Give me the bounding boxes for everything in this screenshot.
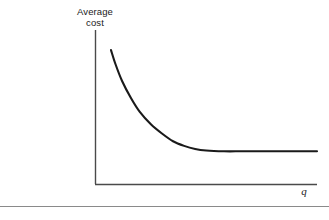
y-axis-label: Average cost [59, 7, 131, 28]
figure-container: Average cost q [0, 0, 329, 220]
y-axis-label-line-1: Average [59, 7, 131, 18]
y-axis-label-line-2: cost [59, 18, 131, 29]
x-axis-label: q [293, 185, 315, 197]
average-cost-chart [0, 0, 329, 220]
bottom-divider-rule [0, 206, 329, 207]
average-cost-curve [111, 50, 317, 151]
